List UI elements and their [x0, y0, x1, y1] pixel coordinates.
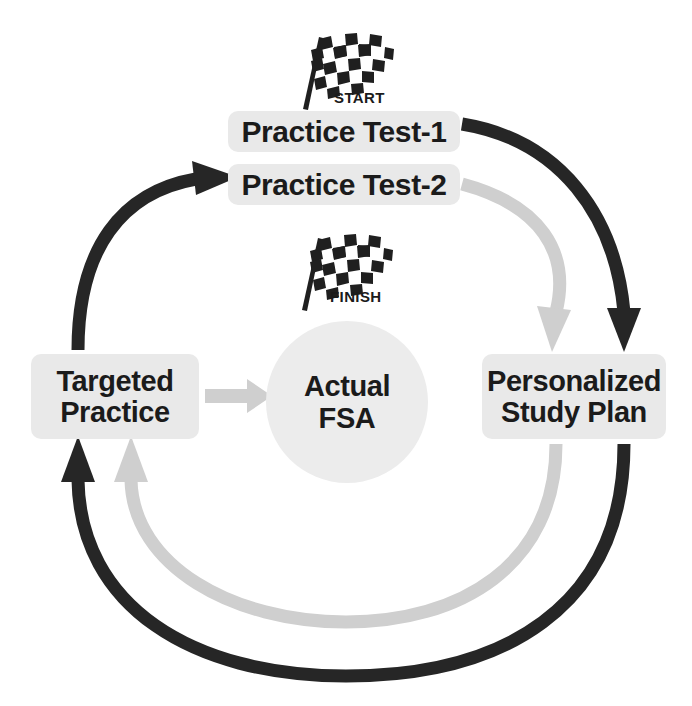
- node-practice-test-2-label: Practice Test-2: [241, 169, 446, 201]
- arrow-pt2-to-psp: [462, 184, 571, 352]
- node-actual-fsa-line2: FSA: [319, 402, 376, 434]
- node-targeted-practice[interactable]: Targeted Practice: [31, 354, 199, 439]
- study-cycle-diagram: START: [0, 0, 692, 706]
- node-practice-test-1[interactable]: Practice Test-1: [228, 111, 460, 152]
- arrow-tp-to-pt2: [78, 161, 238, 350]
- arrow-tp-to-fsa: [205, 379, 272, 413]
- start-flag-caption: START: [334, 89, 385, 106]
- node-actual-fsa[interactable]: Actual FSA: [266, 321, 428, 483]
- finish-flag-caption: FINISH: [330, 288, 382, 305]
- node-actual-fsa-line1: Actual: [304, 370, 390, 402]
- node-targeted-practice-line2: Practice: [60, 397, 170, 428]
- node-personalized-study-plan-line1: Personalized: [487, 366, 661, 397]
- node-targeted-practice-line1: Targeted: [56, 366, 173, 397]
- node-personalized-study-plan-line2: Study Plan: [501, 397, 647, 428]
- node-practice-test-1-label: Practice Test-1: [241, 116, 446, 148]
- node-practice-test-2[interactable]: Practice Test-2: [228, 164, 460, 205]
- node-personalized-study-plan[interactable]: Personalized Study Plan: [482, 354, 666, 439]
